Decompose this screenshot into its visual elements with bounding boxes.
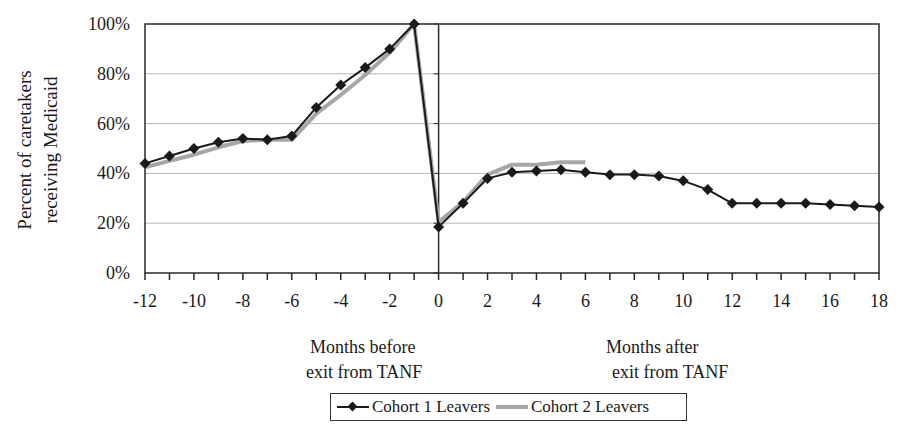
x-tick-label: 16 bbox=[821, 291, 839, 311]
diamond-line-marker-icon bbox=[337, 401, 369, 413]
x-tick-label: -6 bbox=[284, 291, 299, 311]
chart-legend: Cohort 1 Leavers Cohort 2 Leavers bbox=[330, 393, 687, 421]
diamond-marker-icon bbox=[531, 165, 542, 176]
x-tick-label: 8 bbox=[630, 291, 639, 311]
gridlines bbox=[145, 74, 879, 223]
y-axis-title-line2: receiving Medicaid bbox=[38, 70, 64, 229]
y-tick-label: 0% bbox=[106, 263, 130, 283]
diamond-marker-icon bbox=[825, 199, 836, 210]
legend-label-cohort-1: Cohort 1 Leavers bbox=[372, 397, 490, 417]
plot-frame bbox=[145, 24, 879, 273]
gray-line-marker-icon bbox=[496, 401, 528, 413]
diamond-marker-icon bbox=[604, 169, 615, 180]
line-chart: 0%20%40%60%80%100% -12-10-8-6-4-20246810… bbox=[0, 0, 897, 434]
x-tick-label: -12 bbox=[133, 291, 157, 311]
diamond-marker-icon bbox=[262, 134, 273, 145]
diamond-marker-icon bbox=[653, 170, 664, 181]
data-series bbox=[140, 19, 885, 233]
y-axis-title: Percent of caretakers receiving Medicaid bbox=[8, 20, 68, 280]
diamond-marker-icon bbox=[776, 198, 787, 209]
x-axis-ticks: -12-10-8-6-4-2024681012141618 bbox=[133, 273, 888, 311]
diamond-marker-icon bbox=[702, 184, 713, 195]
x-tick-label: -8 bbox=[235, 291, 250, 311]
x-tick-label: 18 bbox=[870, 291, 888, 311]
diamond-marker-icon bbox=[629, 169, 640, 180]
cohort-1-line bbox=[145, 24, 879, 227]
y-axis-ticks: 0%20%40%60%80%100% bbox=[88, 14, 130, 283]
diamond-marker-icon bbox=[751, 198, 762, 209]
diamond-marker-icon bbox=[727, 198, 738, 209]
cohort-2-line bbox=[145, 24, 585, 222]
x-tick-label: -2 bbox=[382, 291, 397, 311]
y-tick-label: 40% bbox=[97, 163, 130, 183]
x-caption-after-line2: exit from TANF bbox=[604, 360, 754, 385]
diamond-marker-icon bbox=[800, 198, 811, 209]
x-tick-label: 6 bbox=[581, 291, 590, 311]
x-tick-label: 0 bbox=[434, 291, 443, 311]
legend-item-cohort-1: Cohort 1 Leavers bbox=[337, 397, 490, 417]
diamond-marker-icon bbox=[849, 200, 860, 211]
y-tick-label: 80% bbox=[97, 64, 130, 84]
x-tick-label: -4 bbox=[333, 291, 348, 311]
x-tick-label: 12 bbox=[723, 291, 741, 311]
y-axis-title-line1: Percent of caretakers bbox=[12, 70, 38, 229]
diamond-marker-icon bbox=[678, 175, 689, 186]
x-tick-label: 4 bbox=[532, 291, 541, 311]
x-tick-label: 14 bbox=[772, 291, 790, 311]
legend-item-cohort-2: Cohort 2 Leavers bbox=[496, 397, 649, 417]
x-caption-before-line1: Months before bbox=[306, 335, 446, 360]
diamond-marker-icon bbox=[874, 202, 885, 213]
y-tick-label: 60% bbox=[97, 114, 130, 134]
y-tick-label: 20% bbox=[97, 213, 130, 233]
x-caption-before-line2: exit from TANF bbox=[306, 360, 446, 385]
x-caption-after-line1: Months after bbox=[604, 335, 754, 360]
x-caption-after: Months after exit from TANF bbox=[604, 335, 754, 385]
x-tick-label: -10 bbox=[182, 291, 206, 311]
axes bbox=[145, 24, 879, 273]
diamond-marker-icon bbox=[580, 167, 591, 178]
x-tick-label: 10 bbox=[674, 291, 692, 311]
x-caption-before: Months before exit from TANF bbox=[306, 335, 446, 385]
x-tick-label: 2 bbox=[483, 291, 492, 311]
y-tick-label: 100% bbox=[88, 14, 130, 34]
legend-label-cohort-2: Cohort 2 Leavers bbox=[531, 397, 649, 417]
